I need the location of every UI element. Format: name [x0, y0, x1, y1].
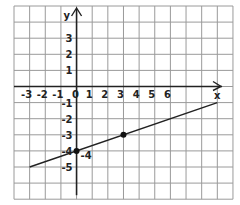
- data-point: [120, 132, 126, 138]
- x-tick-label: 1: [86, 89, 93, 100]
- x-tick-label: 2: [101, 89, 108, 100]
- data-point: [74, 148, 80, 154]
- coordinate-graph: -3-2-10123456321-1-2-3-4-5xy -4: [0, 0, 240, 205]
- tick-labels: -3-2-10123456321-1-2-3-4-5xy: [21, 10, 221, 173]
- y-tick-label: 2: [66, 49, 73, 60]
- y-tick-label: 1: [66, 65, 73, 76]
- x-tick-label: -3: [21, 89, 32, 100]
- x-tick-label: 3: [117, 89, 124, 100]
- grid: [14, 6, 233, 199]
- x-tick-label: 6: [164, 89, 171, 100]
- y-tick-label: -2: [61, 114, 72, 125]
- y-axis-label: y: [64, 10, 71, 21]
- point-label: -4: [81, 150, 92, 161]
- x-tick-label: -2: [37, 89, 48, 100]
- x-tick-label: 5: [148, 89, 155, 100]
- y-tick-label: -5: [61, 162, 72, 173]
- y-tick-label: -1: [61, 98, 72, 109]
- x-tick-label: 0: [72, 89, 79, 100]
- x-axis-label: x: [214, 90, 221, 101]
- y-tick-label: -3: [61, 130, 72, 141]
- y-tick-label: 3: [66, 33, 73, 44]
- x-tick-label: 4: [133, 89, 140, 100]
